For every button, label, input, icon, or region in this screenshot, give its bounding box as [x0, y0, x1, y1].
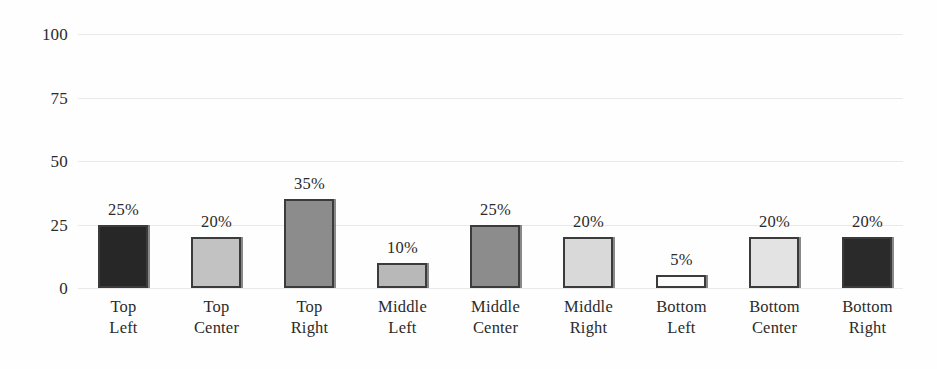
- category-label-line2: Center: [449, 317, 542, 338]
- category-label-line1: Middle: [378, 297, 427, 316]
- x-axis-category-label: TopRight: [263, 296, 356, 338]
- bar-series: 25%TopLeft20%TopCenter35%TopRight10%Midd…: [0, 0, 937, 369]
- category-label-line2: Left: [635, 317, 728, 338]
- category-label-line2: Left: [77, 317, 170, 338]
- category-label-line1: Bottom: [656, 297, 707, 316]
- category-label-line2: Right: [821, 317, 914, 338]
- bar-group-1[interactable]: 25%TopLeft: [77, 0, 170, 369]
- bar[interactable]: [842, 237, 892, 288]
- bar-value-label: 35%: [263, 176, 356, 193]
- bar[interactable]: [284, 199, 334, 288]
- category-label-line1: Top: [296, 297, 322, 316]
- bar-value-label: 20%: [728, 214, 821, 231]
- bar-group-6[interactable]: 20%MiddleRight: [542, 0, 635, 369]
- bar[interactable]: [191, 237, 241, 288]
- category-label-line1: Bottom: [842, 297, 893, 316]
- x-axis-category-label: MiddleLeft: [356, 296, 449, 338]
- category-label-line2: Left: [356, 317, 449, 338]
- bar[interactable]: [98, 225, 148, 289]
- category-label-line2: Right: [263, 317, 356, 338]
- bar[interactable]: [749, 237, 799, 288]
- category-label-line1: Top: [203, 297, 229, 316]
- bar-value-label: 20%: [821, 214, 914, 231]
- x-axis-category-label: BottomRight: [821, 296, 914, 338]
- bar-value-label: 5%: [635, 252, 728, 269]
- bar[interactable]: [470, 225, 520, 289]
- bar-group-9[interactable]: 20%BottomRight: [821, 0, 914, 369]
- bar-group-8[interactable]: 20%BottomCenter: [728, 0, 821, 369]
- category-label-line2: Center: [170, 317, 263, 338]
- category-label-line1: Middle: [471, 297, 520, 316]
- bar-value-label: 20%: [542, 214, 635, 231]
- x-axis-category-label: TopCenter: [170, 296, 263, 338]
- bar-group-3[interactable]: 35%TopRight: [263, 0, 356, 369]
- bar-value-label: 20%: [170, 214, 263, 231]
- bar[interactable]: [377, 263, 427, 288]
- bar[interactable]: [563, 237, 613, 288]
- bar-group-5[interactable]: 25%MiddleCenter: [449, 0, 542, 369]
- x-axis-category-label: BottomCenter: [728, 296, 821, 338]
- category-label-line1: Bottom: [749, 297, 800, 316]
- category-label-line2: Center: [728, 317, 821, 338]
- category-label-line2: Right: [542, 317, 635, 338]
- bar-group-7[interactable]: 5%BottomLeft: [635, 0, 728, 369]
- bar-group-2[interactable]: 20%TopCenter: [170, 0, 263, 369]
- x-axis-category-label: BottomLeft: [635, 296, 728, 338]
- x-axis-category-label: MiddleRight: [542, 296, 635, 338]
- bar-value-label: 10%: [356, 240, 449, 257]
- bar-group-4[interactable]: 10%MiddleLeft: [356, 0, 449, 369]
- bar[interactable]: [656, 275, 706, 288]
- bar-value-label: 25%: [77, 202, 170, 219]
- x-axis-category-label: TopLeft: [77, 296, 170, 338]
- x-axis-category-label: MiddleCenter: [449, 296, 542, 338]
- category-label-line1: Top: [110, 297, 136, 316]
- bar-value-label: 25%: [449, 202, 542, 219]
- category-label-line1: Middle: [564, 297, 613, 316]
- bar-chart: 1007550250 25%TopLeft20%TopCenter35%TopR…: [0, 0, 937, 369]
